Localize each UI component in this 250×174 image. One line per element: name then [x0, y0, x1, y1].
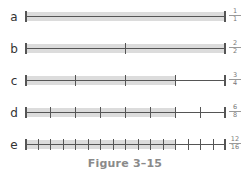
fraction-denominator: 2 [229, 48, 241, 55]
tick-mark [88, 139, 89, 150]
row-label: b [8, 42, 20, 56]
tick-mark [175, 107, 176, 118]
tick-mark [200, 107, 201, 118]
tick-mark [224, 43, 226, 54]
figure-caption: Figure 3–15 [0, 157, 250, 170]
tick-mark [163, 139, 164, 150]
number-line-row-b: b 2 2 [0, 40, 250, 60]
tick-mark [213, 139, 214, 150]
tick-mark [200, 139, 201, 150]
fraction-label: 6 8 [229, 104, 241, 119]
fraction-denominator: 16 [229, 144, 241, 151]
tick-mark [100, 139, 101, 150]
number-line-row-c: c 3 4 [0, 72, 250, 92]
tick-mark [224, 75, 226, 86]
fraction-denominator: 1 [229, 16, 241, 23]
tick-mark [75, 75, 76, 86]
tick-mark [125, 107, 126, 118]
tick-mark [224, 11, 226, 22]
tick-mark [50, 107, 51, 118]
tick-mark [188, 139, 189, 150]
fraction-denominator: 8 [229, 112, 241, 119]
tick-mark [224, 107, 226, 118]
tick-mark [150, 107, 151, 118]
row-label: a [8, 10, 20, 24]
tick-mark [125, 139, 126, 150]
tick-mark [125, 43, 126, 54]
tick-mark [125, 75, 126, 86]
number-line-row-d: d 6 8 [0, 104, 250, 124]
fraction-label: 3 4 [229, 72, 241, 87]
tick-mark [25, 11, 27, 22]
tick-mark [75, 107, 76, 118]
tick-mark [25, 43, 27, 54]
tick-mark [175, 75, 176, 86]
tick-mark [175, 139, 176, 150]
tick-mark [38, 139, 39, 150]
tick-mark [63, 139, 64, 150]
tick-mark [25, 107, 27, 118]
number-line [25, 16, 225, 17]
number-line-row-e: e 12 16 [0, 136, 250, 156]
row-label: d [8, 106, 20, 120]
fraction-label: 12 16 [229, 136, 241, 151]
fraction-denominator: 4 [229, 80, 241, 87]
tick-mark [50, 139, 51, 150]
fraction-label: 2 2 [229, 40, 241, 55]
tick-mark [25, 75, 27, 86]
row-label: e [8, 138, 20, 152]
fraction-label: 1 1 [229, 8, 241, 23]
tick-mark [75, 139, 76, 150]
row-label: c [8, 74, 20, 88]
number-line-row-a: a 1 1 [0, 8, 250, 28]
tick-mark [138, 139, 139, 150]
tick-mark [224, 139, 226, 150]
tick-mark [100, 107, 101, 118]
tick-mark [25, 139, 27, 150]
tick-mark [113, 139, 114, 150]
tick-mark [150, 139, 151, 150]
